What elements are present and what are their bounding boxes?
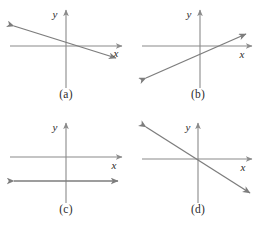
- panel-d-x-axis-label: x: [240, 161, 246, 173]
- panel-a-caption: (a): [0, 88, 132, 100]
- panel-b-x-axis-label: x: [239, 48, 245, 60]
- panel-b: y x (b): [132, 0, 264, 115]
- panel-a: y x (a): [0, 0, 132, 115]
- panel-d: y x (d): [132, 115, 264, 230]
- panel-b-line: [146, 34, 246, 78]
- panel-a-y-axis-label: y: [52, 8, 58, 20]
- panel-d-plot: y x: [132, 115, 264, 211]
- panel-b-caption: (b): [132, 88, 264, 100]
- panel-a-plot: y x: [0, 0, 132, 96]
- panel-d-y-axis-label: y: [185, 121, 191, 133]
- panel-d-caption: (d): [132, 203, 264, 215]
- panel-c-plot: y x: [0, 115, 132, 211]
- panel-c-x-axis-label: x: [111, 159, 117, 171]
- panel-c: y x (c): [0, 115, 132, 230]
- four-panel-coordinate-figure: y x (a) y x: [0, 0, 264, 230]
- panel-c-caption: (c): [0, 203, 132, 215]
- panel-a-line: [14, 26, 116, 58]
- panel-c-y-axis-label: y: [52, 121, 58, 133]
- panel-b-plot: y x: [132, 0, 264, 96]
- panel-a-x-axis-label: x: [113, 47, 119, 59]
- panel-b-y-axis-label: y: [186, 8, 192, 20]
